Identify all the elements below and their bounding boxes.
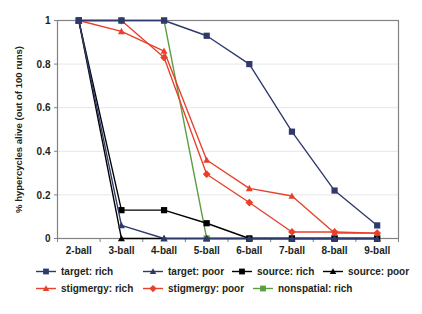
y-tick-label: 0.6 [37, 102, 51, 113]
y-tick-label: 0.8 [37, 59, 51, 70]
y-tick-label: 0 [45, 233, 51, 244]
x-tick-label: 2-ball [66, 245, 92, 256]
x-tick-label: 6-ball [236, 245, 262, 256]
legend-label: target: rich [61, 266, 113, 277]
legend-label: source: poor [348, 266, 409, 277]
legend-label: nonspatial: rich [278, 283, 352, 294]
x-tick-label: 9-ball [364, 245, 390, 256]
x-tick-label: 4-ball [151, 245, 177, 256]
legend-swatch-marker [43, 269, 49, 275]
y-tick-label: 0.4 [37, 146, 51, 157]
data-point-marker [76, 17, 82, 23]
y-tick-label: 1 [45, 15, 51, 26]
y-tick-label: 0.2 [37, 190, 51, 201]
legend-label: stigmergy: poor [168, 283, 244, 294]
x-tick-label: 8-ball [322, 245, 348, 256]
legend-swatch-marker [260, 286, 266, 292]
data-point-marker [118, 17, 124, 23]
legend-label: stigmergy: rich [61, 283, 133, 294]
data-point-marker [161, 17, 167, 23]
y-axis-label: % hypercycles alive (out of 100 runs) [13, 46, 24, 213]
data-point-marker [204, 220, 210, 226]
legend-label: source: rich [257, 266, 314, 277]
x-tick-label: 3-ball [108, 245, 134, 256]
y-axis-title: % hypercycles alive (out of 100 runs) [13, 46, 24, 213]
data-point-marker [161, 207, 167, 213]
data-point-marker [331, 187, 337, 193]
data-point-marker [204, 33, 210, 39]
data-point-marker [374, 222, 380, 228]
data-point-marker [289, 129, 295, 135]
x-tick-label: 7-ball [279, 245, 305, 256]
data-point-marker [246, 61, 252, 67]
x-tick-label: 5-ball [194, 245, 220, 256]
chart-container: 00.20.40.60.81 2-ball3-ball4-ball5-ball6… [0, 0, 422, 314]
legend-label: target: poor [168, 266, 224, 277]
legend-swatch-marker [239, 269, 245, 275]
hypercycle-survival-line-chart: 00.20.40.60.81 2-ball3-ball4-ball5-ball6… [0, 0, 422, 314]
